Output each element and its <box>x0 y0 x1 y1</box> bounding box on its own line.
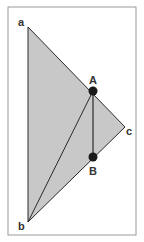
label-b: b <box>18 220 25 232</box>
diagram-canvas: a b c A B <box>0 0 144 242</box>
label-a: a <box>18 16 25 28</box>
point-B <box>89 153 98 162</box>
label-c: c <box>126 125 132 137</box>
label-B: B <box>89 165 97 177</box>
label-A: A <box>89 74 97 86</box>
point-A <box>89 87 98 96</box>
